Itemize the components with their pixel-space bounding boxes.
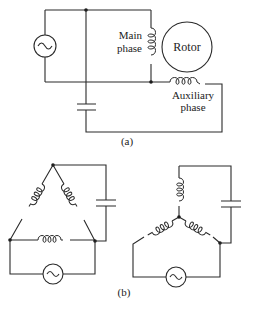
wye-coil-top-icon	[177, 178, 184, 201]
junction-dot	[149, 80, 153, 84]
wye-coil-left-icon	[147, 219, 175, 239]
part-b-caption: (b)	[118, 286, 131, 299]
capacitor-icon	[77, 104, 96, 110]
junction-dot	[177, 215, 181, 219]
main-phase-label-2: phase	[117, 42, 142, 54]
ac-source-icon	[166, 267, 186, 287]
delta-coil-left-icon	[27, 183, 46, 209]
main-phase-coil-icon	[148, 28, 156, 55]
part-b-delta-circuit	[8, 163, 116, 284]
part-a-caption: (a)	[121, 135, 134, 148]
wire	[186, 243, 220, 277]
wire	[53, 165, 106, 241]
capacitor-motor-diagram: Main phase Rotor Auxiliary phase (a)	[0, 0, 254, 310]
wye-coil-right-icon	[184, 219, 212, 239]
delta-coil-right-icon	[60, 183, 79, 209]
part-a-circuit: Main phase Rotor Auxiliary phase (a)	[34, 8, 222, 148]
ac-source-icon	[34, 35, 56, 57]
part-b-wye-circuit	[133, 166, 241, 287]
ac-source-icon	[43, 264, 63, 284]
wire	[179, 166, 231, 243]
capacitor-icon	[96, 200, 116, 206]
auxiliary-phase-label-1: Auxiliary	[172, 89, 215, 101]
wire	[53, 165, 95, 241]
wire	[10, 240, 95, 274]
wire	[10, 165, 53, 240]
auxiliary-phase-label-2: phase	[180, 101, 205, 113]
delta-coil-bottom-icon	[38, 236, 63, 243]
capacitor-icon	[221, 201, 241, 207]
main-phase-label-1: Main	[119, 29, 143, 41]
rotor-label: Rotor	[173, 40, 200, 54]
wire	[133, 237, 166, 277]
auxiliary-phase-coil-icon	[170, 78, 200, 85]
